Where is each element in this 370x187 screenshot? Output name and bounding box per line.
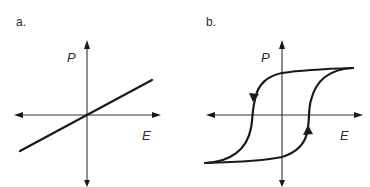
panel-a-y-label: P [67,50,76,65]
panel-a-x-arrow-right-icon [152,112,161,118]
panel-b-y-arrow-up-icon [279,40,285,49]
panel-b-x-arrow-left-icon [206,112,215,118]
panel-a-y-arrow-up-icon [84,40,90,49]
panel-b: b. P E [205,15,363,187]
panel-a-x-arrow-left-icon [14,112,23,118]
panel-b-x-label: E [340,128,349,143]
panel-b-y-label: P [261,50,270,65]
panel-a-x-label: E [142,128,151,143]
panel-b-y-arrow-down-icon [279,180,285,187]
panel-a: a. P E [14,15,161,187]
figure-canvas: a. P E b. P E [0,0,370,187]
panel-b-axes [206,40,363,187]
panel-b-label: b. [206,15,216,29]
panel-a-y-arrow-down-icon [84,180,90,187]
panel-b-direction-arrow-up-icon [303,125,313,135]
panel-b-direction-arrow-down-icon [249,93,259,102]
panel-b-x-arrow-right-icon [354,112,363,118]
panel-a-label: a. [16,15,26,29]
